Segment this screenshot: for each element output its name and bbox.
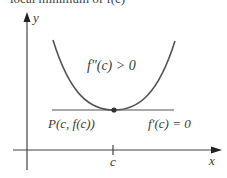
y-axis [24,12,31,170]
point-p [111,107,116,112]
x-tick-label: c [110,154,116,169]
y-axis-arrow-icon [24,12,31,22]
figure-caption-clipped: local minimum of f(c) [10,0,125,7]
x-axis-label: x [208,153,215,168]
point-p-label: P(c, f(c)) [47,116,95,131]
x-axis [13,147,222,154]
second-derivative-label: f″(c) > 0 [87,58,136,74]
y-axis-label: y [31,10,39,25]
diagram-canvas: y x c f″(c) > 0 P(c, f(c)) f′(c) = 0 [0,0,227,178]
first-derivative-label: f′(c) = 0 [148,116,191,131]
concave-up-curve [53,40,175,110]
concavity-diagram: local minimum of f(c) y x c f″(c) > 0 P(… [0,0,227,178]
